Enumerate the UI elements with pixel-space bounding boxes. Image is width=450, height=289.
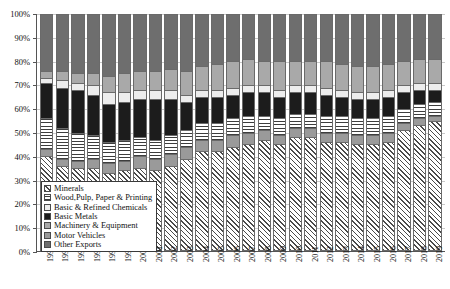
bar-segment (242, 85, 255, 92)
x-axis-tick-label: 2010 (295, 246, 304, 262)
bar-column (351, 14, 364, 251)
legend-label: Basic Metals (54, 212, 98, 221)
x-axis-tick-label: 2007 (248, 246, 257, 262)
bar-column (413, 14, 426, 251)
bar-column (366, 14, 379, 251)
bar-segment (413, 90, 426, 104)
chart-legend: MineralsWood,Pulp, Paper & PrintingBasic… (41, 181, 157, 252)
bar-segment (71, 133, 84, 161)
x-axis-tick: 1999 (117, 253, 130, 287)
bar-segment (382, 90, 395, 97)
bar-segment (320, 14, 333, 61)
legend-item[interactable]: Other Exports (44, 240, 152, 249)
bar-column (164, 14, 177, 251)
legend-item[interactable]: Machinery & Equipment (44, 221, 152, 230)
x-axis-tick: 2004 (195, 253, 208, 287)
bar-segment (335, 142, 348, 251)
bar-segment (71, 161, 84, 168)
bar-segment (56, 71, 69, 80)
bar-segment (242, 144, 255, 251)
bar-segment (40, 149, 53, 156)
bar-segment (304, 61, 317, 85)
x-axis-tick: 1996 (70, 253, 83, 287)
x-axis: 1994199519961997199819992000200120022003… (36, 253, 445, 287)
x-axis-tick-label: 2009 (279, 246, 288, 262)
bar-segment (211, 90, 224, 97)
legend-item[interactable]: Basic Metals (44, 212, 152, 221)
bar-segment (273, 144, 286, 251)
x-axis-tick-label: 2018 (420, 246, 429, 262)
legend-item[interactable]: Motor Vehicles (44, 230, 152, 239)
bar-segment (397, 92, 410, 109)
x-axis-tick: 2008 (257, 253, 270, 287)
bar-segment (258, 130, 271, 139)
bar-segment (226, 14, 239, 61)
legend-swatch-metals (44, 213, 51, 220)
x-axis-tick: 2013 (335, 253, 348, 287)
bar-segment (258, 140, 271, 251)
bar-segment (366, 135, 379, 144)
bar-segment (164, 69, 177, 90)
bar-segment (87, 73, 100, 85)
x-axis-tick-label: 2002 (170, 246, 179, 262)
bar-segment (102, 76, 115, 93)
bar-segment (149, 159, 162, 171)
bar-segment (289, 61, 302, 85)
bar-segment (289, 92, 302, 113)
bar-segment (180, 102, 193, 130)
x-axis-tick: 2009 (273, 253, 286, 287)
bar-segment (102, 92, 115, 104)
bar-segment (56, 128, 69, 159)
bar-column (226, 14, 239, 251)
bar-segment (118, 140, 131, 161)
bar-segment (149, 71, 162, 90)
bar-segment (180, 95, 193, 102)
bar-segment (351, 144, 364, 251)
x-axis-tick: 2000 (133, 253, 146, 287)
bar-segment (366, 92, 379, 99)
bar-segment (351, 66, 364, 92)
bar-segment (195, 97, 208, 123)
legend-label: Basic & Refined Chemicals (54, 203, 147, 212)
bar-segment (320, 142, 333, 251)
bar-column (258, 14, 271, 251)
bar-segment (180, 71, 193, 95)
bar-segment (71, 14, 84, 73)
bar-segment (273, 90, 286, 97)
bar-column (335, 14, 348, 251)
legend-item[interactable]: Basic & Refined Chemicals (44, 203, 152, 212)
legend-label: Motor Vehicles (54, 231, 105, 240)
bar-segment (289, 114, 302, 128)
bar-segment (195, 14, 208, 66)
bar-segment (102, 163, 115, 172)
bar-segment (164, 166, 177, 251)
x-axis-tick-label: 2004 (202, 246, 211, 262)
bar-segment (366, 66, 379, 92)
bar-segment (87, 14, 100, 73)
bar-segment (304, 14, 317, 61)
bar-segment (164, 99, 177, 135)
y-axis-tick-label: 20% (14, 199, 30, 209)
bar-segment (335, 116, 348, 133)
bar-segment (211, 14, 224, 64)
bar-segment (118, 161, 131, 170)
bar-column (273, 14, 286, 251)
bar-segment (289, 128, 302, 137)
bar-segment (413, 125, 426, 251)
bar-segment (335, 133, 348, 142)
bar-segment (397, 123, 410, 130)
bar-segment (226, 88, 239, 95)
bar-segment (211, 97, 224, 123)
bar-segment (242, 92, 255, 116)
bar-segment (242, 14, 255, 59)
bar-segment (242, 59, 255, 85)
bar-segment (304, 137, 317, 251)
bar-segment (304, 92, 317, 113)
bar-column (320, 14, 333, 251)
bar-segment (320, 88, 333, 95)
bar-segment (428, 14, 441, 59)
legend-item[interactable]: Wood,Pulp, Paper & Printing (44, 193, 152, 202)
legend-item[interactable]: Minerals (44, 184, 152, 193)
bar-segment (366, 14, 379, 66)
bar-segment (164, 154, 177, 166)
